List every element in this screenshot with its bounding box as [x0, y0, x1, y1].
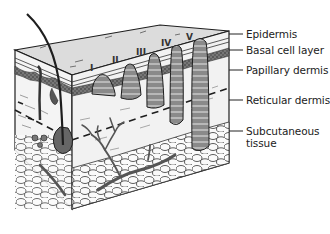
label-epidermis: Epidermis: [246, 28, 297, 40]
label-papillary-dermis: Papillary dermis: [246, 64, 328, 76]
label-subcutaneous: Subcutaneous: [246, 125, 319, 137]
label-basal-cell-layer: Basal cell layer: [246, 44, 324, 56]
tumor-level-iv: [170, 46, 183, 125]
level-label-ii: II: [112, 55, 119, 65]
label-reticular-dermis: Reticular dermis: [246, 94, 330, 106]
label-tissue: tissue: [246, 137, 277, 149]
level-label-i: I: [90, 63, 93, 73]
level-label-iii: III: [136, 47, 146, 57]
level-label-v: V: [186, 32, 193, 42]
level-label-iv: IV: [161, 38, 171, 48]
tumor-level-v: [192, 39, 209, 151]
leader-lines: [229, 34, 243, 131]
